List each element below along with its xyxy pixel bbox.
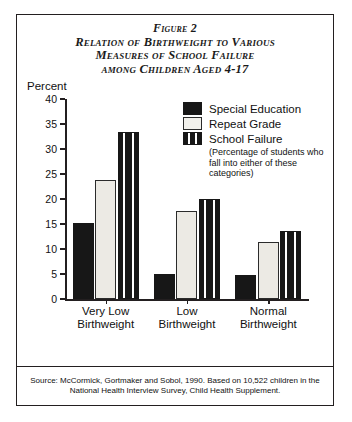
source-divider bbox=[17, 366, 333, 367]
category-label-line-1: Very Low bbox=[61, 305, 151, 318]
bar-special-education bbox=[235, 275, 256, 299]
chart-axes: 0510152025303540 Very LowBirthweightLowB… bbox=[65, 99, 309, 299]
y-axis-tick-label: 40 bbox=[45, 94, 57, 105]
source-note-line-2: National Health Interview Survey, Child … bbox=[27, 386, 323, 396]
source-note: Source: McCormick, Gortmaker and Sobol, … bbox=[27, 376, 323, 396]
y-axis-tick-label: 25 bbox=[45, 169, 57, 180]
y-axis-tick-label: 0 bbox=[51, 294, 57, 305]
category-label: LowBirthweight bbox=[142, 305, 232, 330]
bar-group bbox=[65, 99, 146, 299]
bar-special-education bbox=[73, 223, 94, 299]
bar-group bbox=[146, 99, 227, 299]
category-label-line-1: Low bbox=[142, 305, 232, 318]
bar-school-failure bbox=[199, 199, 220, 300]
source-note-line-1: Source: McCormick, Gortmaker and Sobol, … bbox=[27, 376, 323, 386]
bar-special-education bbox=[154, 274, 175, 300]
figure-title-line-2: Relation of Birthweight to Various bbox=[17, 36, 333, 50]
y-axis-tick-label: 10 bbox=[45, 244, 57, 255]
category-label-line-2: Birthweight bbox=[223, 318, 313, 331]
x-axis-tick bbox=[268, 299, 269, 304]
y-axis-tick-label: 5 bbox=[51, 269, 57, 280]
category-label-line-2: Birthweight bbox=[142, 318, 232, 331]
category-label-line-2: Birthweight bbox=[61, 318, 151, 331]
figure-title: Figure 2 Relation of Birthweight to Vari… bbox=[17, 22, 333, 76]
bar-repeat-grade bbox=[176, 211, 197, 300]
bar-repeat-grade bbox=[258, 242, 279, 299]
bar-group bbox=[228, 99, 309, 299]
x-axis-tick bbox=[187, 299, 188, 304]
plot-area: Percent Special Education Repeat Grade S… bbox=[17, 76, 333, 344]
y-axis-tick-label: 15 bbox=[45, 219, 57, 230]
bar-school-failure bbox=[280, 231, 301, 299]
category-label: NormalBirthweight bbox=[223, 305, 313, 330]
y-axis-tick-label: 35 bbox=[45, 119, 57, 130]
bar-school-failure bbox=[118, 132, 139, 300]
y-axis-tick-label: 20 bbox=[45, 194, 57, 205]
bar-repeat-grade bbox=[95, 180, 116, 299]
figure-frame: Figure 2 Relation of Birthweight to Vari… bbox=[16, 14, 334, 406]
category-label-line-1: Normal bbox=[223, 305, 313, 318]
figure-title-line-1: Figure 2 bbox=[17, 22, 333, 36]
x-axis-tick bbox=[106, 299, 107, 304]
figure-title-line-4: among Children Aged 4-17 bbox=[17, 63, 333, 77]
category-label: Very LowBirthweight bbox=[61, 305, 151, 330]
figure-title-line-3: Measures of School Failure bbox=[17, 49, 333, 63]
y-axis-label: Percent bbox=[27, 80, 67, 92]
y-axis-tick-label: 30 bbox=[45, 144, 57, 155]
